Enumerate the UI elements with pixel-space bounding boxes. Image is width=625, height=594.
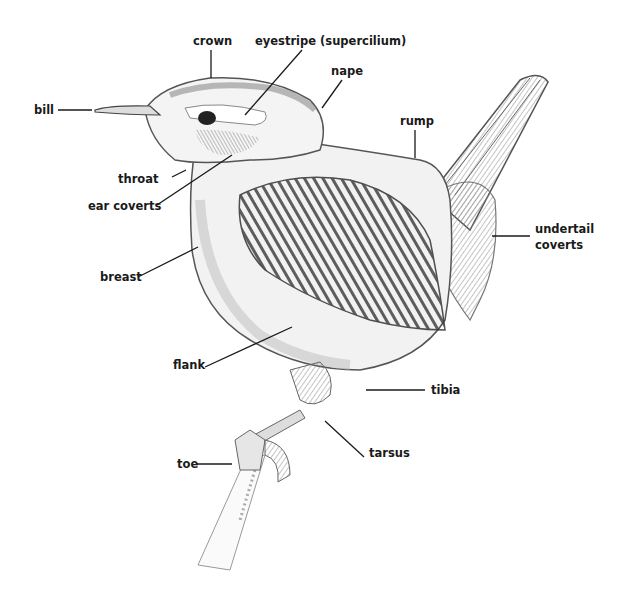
leader-nape <box>322 80 342 108</box>
label-ear-coverts: ear coverts <box>88 199 161 213</box>
label-undertail: undertail <box>535 222 594 236</box>
label-breast: breast <box>100 270 142 284</box>
leader-breast <box>138 247 198 277</box>
label-crown: crown <box>193 34 232 48</box>
label-rump: rump <box>400 114 434 128</box>
label-toe: toe <box>177 457 198 471</box>
eye <box>198 111 216 125</box>
leader-tarsus <box>325 421 364 457</box>
label-bill: bill <box>34 103 54 117</box>
perch-branch <box>198 455 265 570</box>
head <box>95 78 323 163</box>
label-nape: nape <box>331 64 363 78</box>
label-flank: flank <box>173 358 205 372</box>
label-throat: throat <box>118 172 159 186</box>
label-tibia: tibia <box>431 383 460 397</box>
leader-throat <box>172 170 186 177</box>
label-tarsus: tarsus <box>369 446 410 460</box>
bird-diagram: crown eyestripe (supercilium) nape bill … <box>0 0 625 594</box>
label-undertail-coverts: coverts <box>535 238 583 252</box>
legs <box>235 362 331 482</box>
bill <box>95 106 160 115</box>
label-eyestripe: eyestripe (supercilium) <box>255 34 406 48</box>
bird-illustration <box>0 0 625 594</box>
